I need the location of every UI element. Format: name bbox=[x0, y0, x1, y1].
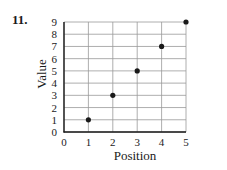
y-tick-label: 5 bbox=[52, 65, 58, 77]
grid-lines bbox=[64, 22, 186, 132]
y-tick-label: 2 bbox=[52, 102, 58, 114]
x-tick-labels: 012345 bbox=[61, 136, 189, 148]
data-point bbox=[110, 93, 115, 98]
data-point bbox=[183, 19, 188, 24]
y-tick-label: 3 bbox=[52, 89, 58, 101]
y-tick-label: 0 bbox=[52, 126, 58, 138]
y-tick-label: 6 bbox=[52, 53, 58, 65]
y-tick-label: 8 bbox=[52, 28, 58, 40]
y-tick-label: 4 bbox=[52, 77, 58, 89]
y-tick-label: 1 bbox=[52, 114, 58, 126]
y-tick-labels: 0123456789 bbox=[52, 16, 58, 138]
data-point bbox=[135, 68, 140, 73]
scatter-chart: 0123456789 012345 bbox=[0, 0, 227, 170]
x-tick-label: 3 bbox=[134, 136, 140, 148]
x-tick-label: 4 bbox=[159, 136, 165, 148]
x-tick-label: 2 bbox=[110, 136, 116, 148]
x-tick-label: 5 bbox=[183, 136, 189, 148]
y-tick-label: 9 bbox=[52, 16, 58, 28]
x-tick-label: 1 bbox=[86, 136, 92, 148]
y-tick-label: 7 bbox=[52, 40, 58, 52]
data-point bbox=[86, 117, 91, 122]
x-tick-label: 0 bbox=[61, 136, 67, 148]
data-point bbox=[159, 44, 164, 49]
axes bbox=[64, 22, 187, 133]
